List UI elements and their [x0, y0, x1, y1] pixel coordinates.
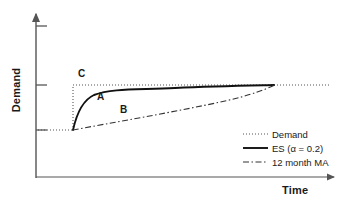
chart-container: Demand Time A B C Demand ES (α = 0.2) 12…	[0, 0, 349, 202]
legend-label-moving-average: 12 month MA	[272, 157, 329, 168]
annotation-label-c: C	[78, 68, 85, 79]
y-axis-title: Demand	[10, 60, 22, 120]
legend-label-es: ES (α = 0.2)	[272, 143, 323, 154]
annotation-label-a: A	[97, 91, 104, 102]
legend-label-demand: Demand	[272, 129, 308, 140]
annotation-label-b: B	[120, 104, 127, 115]
x-axis-title: Time	[282, 184, 308, 196]
chart-plot-area	[0, 0, 349, 202]
legend-swatches	[243, 134, 268, 162]
